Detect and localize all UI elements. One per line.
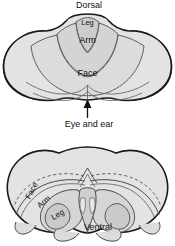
label-arm-upper: Arm [79,35,96,45]
label-face-upper: Face [77,68,97,78]
figure-canvas: Dorsal Leg Arm Face Eye and ear [0,0,175,246]
lower-panel-group: Face Arm Leg Ventral [7,147,167,241]
anatomical-figure: Dorsal Leg Arm Face Eye and ear [0,0,175,246]
label-leg-upper: Leg [81,18,93,27]
label-ventral: Ventral [84,222,112,232]
label-eye-and-ear: Eye and ear [65,119,114,129]
label-dorsal: Dorsal [76,0,102,10]
